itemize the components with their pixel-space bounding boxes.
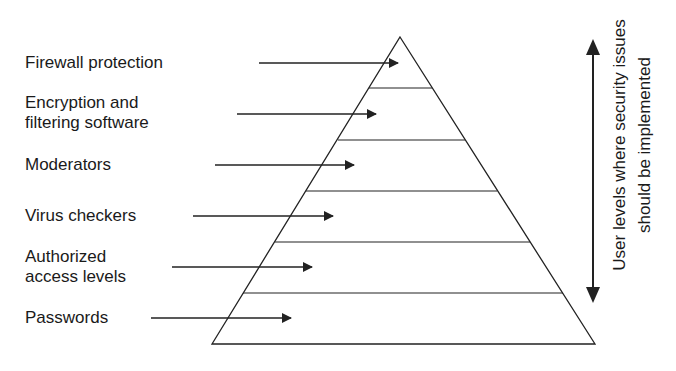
label-authorized-access-levels: Authorized access levels — [25, 247, 126, 287]
arrow-down-head — [586, 287, 600, 303]
side-annotation-line-2: should be implemented — [632, 0, 657, 315]
security-pyramid-diagram: Firewall protection Encryption and filte… — [0, 0, 676, 371]
label-virus-checkers: Virus checkers — [25, 206, 136, 226]
double-headed-arrow — [586, 39, 600, 303]
label-moderators: Moderators — [25, 155, 111, 175]
label-encryption-filtering: Encryption and filtering software — [25, 93, 149, 133]
label-firewall-protection: Firewall protection — [25, 53, 163, 73]
label-passwords: Passwords — [25, 308, 108, 328]
side-annotation-line-1: User levels where security issues — [607, 0, 632, 315]
arrow-up-head — [586, 39, 600, 55]
side-annotation: User levels where security issues should… — [607, 0, 657, 315]
